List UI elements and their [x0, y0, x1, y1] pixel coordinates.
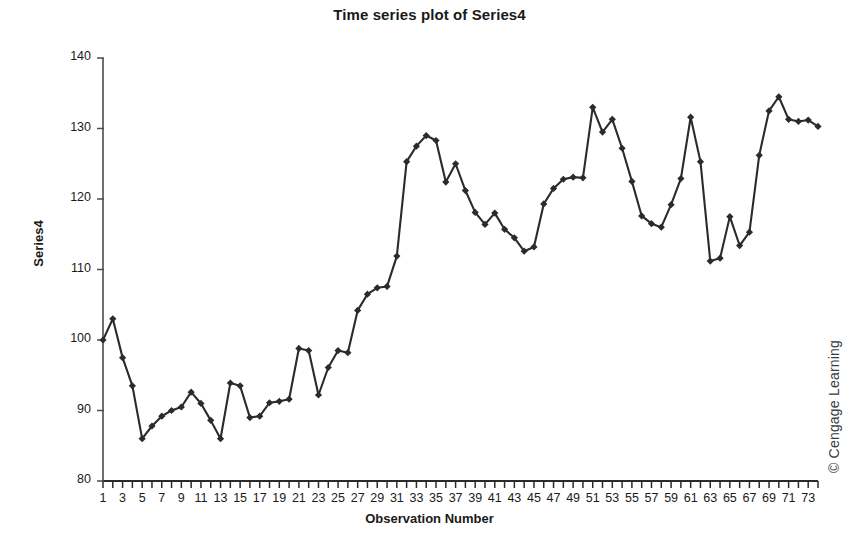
data-point-marker: [246, 414, 253, 421]
data-point-marker: [276, 398, 283, 405]
y-tick-label: 80: [39, 472, 91, 486]
y-tick-label: 120: [39, 190, 91, 204]
data-point-marker: [726, 213, 733, 220]
data-point-marker: [237, 382, 244, 389]
x-axis-ticks: [103, 481, 818, 488]
data-point-marker: [677, 175, 684, 182]
data-point-marker: [579, 174, 586, 181]
y-tick-label: 110: [39, 261, 91, 275]
data-point-marker: [305, 347, 312, 354]
data-point-marker: [687, 114, 694, 121]
plot-area: [0, 0, 859, 550]
y-tick-label: 130: [39, 120, 91, 134]
data-point-marker: [109, 315, 116, 322]
data-point-marker: [295, 345, 302, 352]
data-point-marker: [697, 158, 704, 165]
data-point-marker: [99, 336, 106, 343]
data-point-marker: [344, 349, 351, 356]
data-point-marker: [619, 145, 626, 152]
data-point-marker: [119, 354, 126, 361]
data-point-marker: [227, 379, 234, 386]
data-point-marker: [707, 257, 714, 264]
data-point-marker: [570, 174, 577, 181]
data-point-marker: [756, 152, 763, 159]
data-point-marker: [589, 104, 596, 111]
data-point-marker: [628, 178, 635, 185]
data-point-marker: [129, 382, 136, 389]
data-point-marker: [785, 116, 792, 123]
data-point-marker: [315, 391, 322, 398]
y-tick-label: 140: [39, 49, 91, 63]
series-markers: [99, 93, 821, 442]
data-point-marker: [285, 396, 292, 403]
data-point-marker: [383, 283, 390, 290]
y-tick-label: 90: [39, 402, 91, 416]
data-point-marker: [795, 118, 802, 125]
series-line: [103, 97, 818, 439]
chart-figure: Time series plot of Series4 Series4 Obse…: [0, 0, 859, 550]
x-tick-label: 73: [794, 491, 822, 505]
data-point-marker: [716, 255, 723, 262]
data-point-marker: [667, 201, 674, 208]
data-point-marker: [432, 137, 439, 144]
data-point-marker: [658, 224, 665, 231]
y-tick-label: 100: [39, 331, 91, 345]
data-point-marker: [462, 187, 469, 194]
data-point-marker: [530, 243, 537, 250]
data-point-marker: [393, 253, 400, 260]
